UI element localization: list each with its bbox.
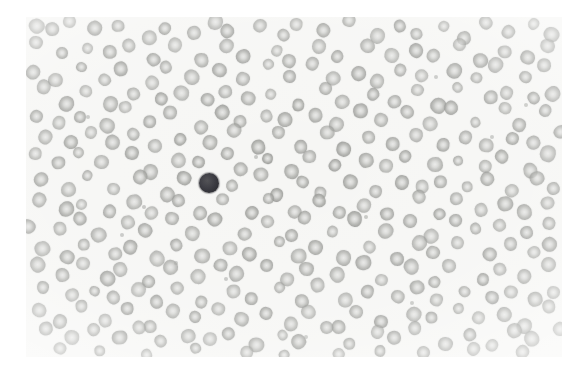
red-blood-cell (346, 210, 363, 228)
red-blood-cell (408, 26, 423, 41)
red-blood-cell (258, 108, 274, 125)
red-blood-cell (375, 220, 397, 242)
red-blood-cell (541, 298, 557, 315)
red-blood-cell (547, 286, 561, 300)
red-blood-cell (383, 47, 400, 64)
red-blood-cell (437, 336, 454, 352)
red-blood-cell (181, 66, 203, 88)
red-blood-cell (143, 115, 157, 129)
red-blood-cell (222, 241, 238, 257)
red-blood-cell (201, 330, 219, 348)
red-blood-cell (399, 102, 417, 121)
red-blood-cell (333, 92, 353, 111)
red-blood-cell (211, 257, 229, 274)
red-blood-cell (100, 94, 120, 115)
red-blood-cell (493, 147, 512, 166)
red-blood-cell (126, 86, 143, 103)
red-blood-cell (199, 90, 218, 109)
red-blood-cell (425, 312, 438, 324)
red-blood-cell (494, 304, 515, 325)
red-blood-cell (537, 101, 554, 118)
red-blood-cell (121, 238, 138, 256)
red-blood-cell (50, 155, 65, 169)
red-blood-cell (409, 279, 426, 296)
red-blood-cell (30, 190, 49, 209)
red-blood-cell (253, 166, 270, 183)
red-blood-cell (334, 248, 353, 267)
debris-speck (434, 75, 438, 79)
red-blood-cell (516, 203, 533, 221)
debris-speck (120, 233, 124, 237)
red-blood-cell (468, 221, 483, 237)
red-blood-cell (497, 100, 514, 117)
debris-speck (254, 155, 258, 159)
red-blood-cell (224, 177, 240, 194)
red-blood-cell (393, 173, 410, 190)
red-blood-cell (263, 87, 278, 102)
red-blood-cell (539, 195, 557, 212)
red-blood-cell (100, 202, 118, 221)
red-blood-cell (226, 284, 240, 299)
red-blood-cell (184, 225, 201, 242)
red-blood-cell (431, 205, 448, 222)
red-blood-cell (106, 182, 120, 196)
red-blood-cell (483, 90, 498, 104)
red-blood-cell (385, 329, 403, 347)
red-blood-cell (434, 175, 448, 189)
red-blood-cell (325, 224, 340, 240)
red-blood-cell (261, 57, 276, 72)
red-blood-cell (326, 156, 344, 174)
red-blood-cell (216, 83, 234, 101)
red-blood-cell (243, 203, 261, 222)
red-blood-cell (105, 288, 123, 306)
red-blood-cell (450, 80, 465, 95)
red-blood-cell (147, 293, 166, 312)
red-blood-cell (542, 83, 562, 105)
red-blood-cell (483, 289, 501, 306)
red-blood-cell (444, 60, 466, 82)
red-blood-cell (461, 180, 472, 192)
red-blood-cell (290, 18, 304, 32)
red-blood-cell (379, 206, 395, 221)
red-blood-cell (306, 238, 325, 257)
red-blood-cell (465, 339, 484, 357)
red-blood-cell (163, 301, 181, 320)
red-blood-cell (427, 157, 443, 172)
red-blood-cell (388, 288, 407, 307)
red-blood-cell (260, 258, 274, 271)
red-blood-cell (73, 110, 87, 124)
red-blood-cell (299, 262, 314, 276)
nucleated-cell (199, 173, 219, 193)
red-blood-cell (348, 63, 369, 84)
red-blood-cell (124, 144, 142, 161)
red-blood-cell (125, 126, 142, 143)
red-blood-cell (469, 115, 482, 128)
red-blood-cell (151, 332, 168, 350)
red-blood-cell (103, 44, 118, 59)
red-blood-cell (374, 345, 386, 357)
red-blood-cell (64, 329, 80, 345)
red-blood-cell (480, 244, 500, 264)
red-blood-cell (282, 69, 297, 83)
red-blood-cell (96, 71, 114, 88)
red-blood-cell (319, 125, 334, 140)
red-blood-cell (261, 152, 275, 166)
red-blood-cell (200, 134, 218, 152)
red-blood-cell (172, 130, 190, 148)
red-blood-cell (219, 145, 236, 162)
debris-speck (410, 301, 414, 305)
red-blood-cell (102, 133, 122, 153)
red-blood-cell (111, 19, 125, 32)
debris-speck (174, 261, 178, 265)
red-blood-cell (499, 22, 517, 40)
red-blood-cell (450, 234, 466, 250)
red-blood-cell (449, 192, 463, 205)
red-blood-cell (396, 147, 414, 165)
red-blood-cell (504, 236, 519, 251)
red-blood-cell (294, 174, 311, 190)
red-blood-cell (537, 57, 553, 72)
red-blood-cell (277, 348, 291, 357)
debris-speck (224, 277, 228, 281)
red-blood-cell (544, 179, 562, 197)
red-blood-cell (378, 158, 393, 173)
